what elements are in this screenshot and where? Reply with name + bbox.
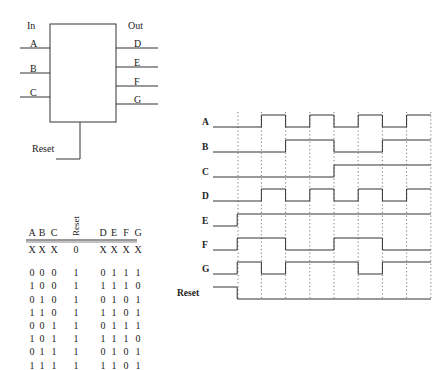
table-cell: 0 xyxy=(49,308,59,318)
table-cell: 0 xyxy=(121,295,131,305)
table-cell: 1 xyxy=(133,321,143,331)
table-cell: 0 xyxy=(71,245,81,255)
table-cell: 1 xyxy=(98,334,108,344)
waveform-f xyxy=(213,238,431,250)
reset-line xyxy=(56,122,80,159)
signal-label-e: E xyxy=(202,216,208,226)
table-cell: 1 xyxy=(71,321,81,331)
waveform-c xyxy=(213,165,431,177)
table-cell: 1 xyxy=(71,268,81,278)
table-cell: 1 xyxy=(121,321,131,331)
output-label-e: E xyxy=(134,58,140,68)
table-cell: 1 xyxy=(37,347,47,357)
table-cell: 1 xyxy=(49,321,59,331)
table-cell: 1 xyxy=(71,334,81,344)
table-cell: X xyxy=(133,245,143,255)
table-cell: 1 xyxy=(27,361,37,370)
waveform-reset xyxy=(213,287,431,299)
table-cell: X xyxy=(49,245,59,255)
out-label: Out xyxy=(128,21,143,31)
table-cell: 1 xyxy=(98,308,108,318)
table-cell: 1 xyxy=(98,361,108,370)
table-cell: 1 xyxy=(109,334,119,344)
table-cell: 0 xyxy=(49,281,59,291)
table-cell: 0 xyxy=(98,347,108,357)
waveform-g xyxy=(213,262,431,274)
table-cell: 0 xyxy=(98,321,108,331)
table-cell: 1 xyxy=(71,281,81,291)
table-header-f: F xyxy=(121,228,131,238)
table-header-b: B xyxy=(37,228,47,238)
waveform-b xyxy=(213,140,431,152)
signal-label-g: G xyxy=(202,264,209,274)
table-cell: 1 xyxy=(71,308,81,318)
table-cell: 0 xyxy=(27,321,37,331)
table-cell: 0 xyxy=(27,347,37,357)
table-cell: X xyxy=(37,245,47,255)
input-label-b: B xyxy=(30,64,37,74)
table-cell: 1 xyxy=(37,308,47,318)
table-header-a: A xyxy=(27,228,37,238)
table-cell: 1 xyxy=(109,281,119,291)
table-header-e: E xyxy=(109,228,119,238)
in-label: In xyxy=(27,21,35,31)
input-label-c: C xyxy=(30,88,37,98)
input-label-a: A xyxy=(30,39,37,49)
signal-label-f: F xyxy=(202,240,208,250)
signal-label-d: D xyxy=(202,191,209,201)
diagram-canvas xyxy=(0,0,447,370)
table-cell: 0 xyxy=(27,295,37,305)
table-cell: 1 xyxy=(109,295,119,305)
table-cell: X xyxy=(27,245,37,255)
table-cell: 1 xyxy=(109,308,119,318)
table-cell: 0 xyxy=(49,268,59,278)
table-cell: 0 xyxy=(49,295,59,305)
table-cell: 1 xyxy=(71,347,81,357)
output-label-d: D xyxy=(134,39,141,49)
table-cell: X xyxy=(109,245,119,255)
table-cell: 1 xyxy=(98,281,108,291)
table-cell: 1 xyxy=(71,295,81,305)
table-cell: X xyxy=(121,245,131,255)
table-cell: 0 xyxy=(37,281,47,291)
signal-label-c: C xyxy=(202,167,209,177)
table-cell: 1 xyxy=(49,361,59,370)
table-cell: 0 xyxy=(121,308,131,318)
table-cell: 1 xyxy=(133,268,143,278)
table-cell: 1 xyxy=(27,281,37,291)
logic-block xyxy=(50,24,116,122)
waveform-d xyxy=(213,189,431,201)
table-cell: 1 xyxy=(49,347,59,357)
table-cell: 1 xyxy=(133,295,143,305)
table-cell: 0 xyxy=(121,347,131,357)
table-header-reset: Reset xyxy=(71,216,81,236)
output-label-f: F xyxy=(134,77,140,87)
table-cell: 1 xyxy=(109,347,119,357)
reset-label: Reset xyxy=(32,144,54,154)
table-cell: 1 xyxy=(121,281,131,291)
table-cell: 0 xyxy=(27,268,37,278)
table-cell: 0 xyxy=(37,268,47,278)
table-cell: 1 xyxy=(49,334,59,344)
table-cell: 0 xyxy=(37,321,47,331)
waveform-e xyxy=(213,214,431,226)
table-cell: 0 xyxy=(37,334,47,344)
table-cell: 1 xyxy=(71,361,81,370)
table-cell: 1 xyxy=(109,321,119,331)
table-cell: 1 xyxy=(133,347,143,357)
table-header-d: D xyxy=(98,228,108,238)
table-cell: 0 xyxy=(121,361,131,370)
table-cell: 0 xyxy=(133,281,143,291)
table-cell: 1 xyxy=(109,268,119,278)
signal-label-b: B xyxy=(202,142,208,152)
table-cell: 1 xyxy=(37,361,47,370)
signal-label-a: A xyxy=(202,117,209,127)
timing-waveforms xyxy=(213,115,431,299)
signal-label-reset: Reset xyxy=(177,288,199,298)
table-cell: X xyxy=(98,245,108,255)
table-cell: 1 xyxy=(27,334,37,344)
table-cell: 0 xyxy=(98,268,108,278)
table-cell: 1 xyxy=(121,268,131,278)
table-cell: 0 xyxy=(98,295,108,305)
output-label-g: G xyxy=(134,95,141,105)
